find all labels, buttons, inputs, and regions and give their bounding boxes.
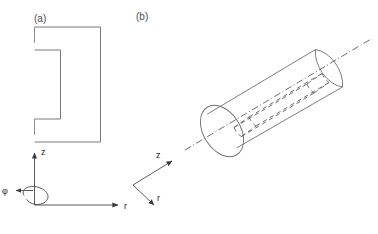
panel-a-phi-label: φ <box>2 186 8 196</box>
panel-b-group: (b) <box>133 11 371 205</box>
figure-container: (a) z r φ (b) <box>0 0 378 234</box>
panel-a-label: (a) <box>34 13 46 24</box>
panel-a-phi-loop <box>23 186 48 204</box>
cylinder-hidden-end-near-lower <box>242 126 257 137</box>
cylinder-hidden-arc-near-inner <box>234 128 242 137</box>
cylinder-hidden-arc-near-outer <box>249 117 256 126</box>
panel-a-z-label: z <box>41 147 46 157</box>
panel-a-group: (a) z r φ <box>2 13 127 211</box>
panel-b-z-axis <box>133 161 172 185</box>
cylinder-near-cap <box>191 97 252 164</box>
panel-a-profile-outline <box>35 27 101 142</box>
panel-b-label: (b) <box>136 11 148 22</box>
cylinder-hidden-arc-far-outer <box>322 74 329 83</box>
cylinder-bottom-edge <box>237 87 343 148</box>
cylinder-hidden-outer-wall-lower <box>256 83 329 127</box>
panel-b-z-label: z <box>156 150 161 160</box>
cylinder-symmetry-axis <box>185 39 371 150</box>
panel-b-r-label: r <box>157 193 160 203</box>
panel-b-r-axis <box>133 185 154 205</box>
cylinder-hidden-arc-far-inner <box>307 84 314 93</box>
panel-a-r-label: r <box>124 201 127 211</box>
diagram-svg: (a) z r φ (b) <box>0 0 378 234</box>
cylinder-hidden-inner-wall-upper <box>234 84 307 128</box>
